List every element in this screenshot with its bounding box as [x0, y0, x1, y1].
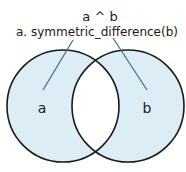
title-operator: a ^ b: [82, 9, 117, 24]
set-b-label: b: [143, 100, 152, 116]
venn-diagram: a ^ b a. symmetric_difference(b) a b: [0, 0, 186, 172]
title-method: a. symmetric_difference(b): [16, 24, 178, 39]
set-a-label: a: [38, 100, 47, 116]
